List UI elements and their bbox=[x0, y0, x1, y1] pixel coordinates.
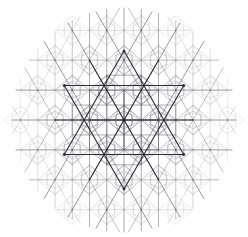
hexagram-vertex bbox=[123, 188, 126, 191]
lattice-vertex bbox=[123, 59, 125, 61]
lattice-vertex bbox=[20, 119, 22, 121]
hexagram-vertex bbox=[63, 153, 66, 156]
lattice-vertex bbox=[209, 149, 211, 151]
lattice-vertex bbox=[140, 209, 142, 211]
lattice-vertex bbox=[140, 29, 142, 31]
lattice-vertex bbox=[71, 89, 73, 91]
lattice-vertex bbox=[123, 179, 125, 181]
lattice-vertex bbox=[71, 209, 73, 211]
lattice-vertex bbox=[71, 29, 73, 31]
figure-root bbox=[0, 0, 248, 237]
lattice-vertex bbox=[106, 29, 108, 31]
lattice-vertex bbox=[192, 59, 194, 61]
lattice-vertex bbox=[175, 149, 177, 151]
geometric-pattern-canvas bbox=[0, 0, 248, 237]
pattern-center-point bbox=[122, 118, 125, 121]
lattice-vertex bbox=[37, 149, 39, 151]
lattice-vertex bbox=[106, 209, 108, 211]
hexagram-vertex bbox=[63, 84, 66, 87]
hexagram-vertex bbox=[182, 153, 185, 156]
lattice-vertex bbox=[192, 179, 194, 181]
lattice-vertex bbox=[37, 89, 39, 91]
lattice-vertex bbox=[54, 179, 56, 181]
lattice-vertex bbox=[175, 29, 177, 31]
lattice-vertex bbox=[175, 89, 177, 91]
lattice-vertex bbox=[71, 149, 73, 151]
lattice-vertex bbox=[175, 209, 177, 211]
hexagram-vertex bbox=[182, 84, 185, 87]
hexagram-vertex bbox=[123, 50, 126, 53]
lattice-vertex bbox=[54, 59, 56, 61]
lattice-vertex bbox=[227, 119, 229, 121]
lattice-vertex bbox=[209, 89, 211, 91]
